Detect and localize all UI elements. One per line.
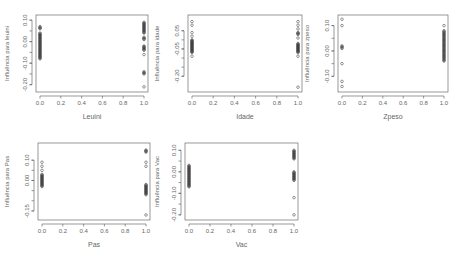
x-axis-label: Zpeso xyxy=(383,113,403,121)
x-tick-label: 0.0 xyxy=(188,100,197,106)
x-axis-label: Pas xyxy=(88,241,101,248)
y-tick-label: 0.05 xyxy=(174,24,180,36)
x-tick-label: 0.0 xyxy=(38,228,47,234)
y-axis-label: Influência para Pas xyxy=(4,156,10,207)
x-tick-label: 0.0 xyxy=(36,100,45,106)
scatter-panel-vac: 0.00.20.40.60.81.00.100.00-0.10-0.20VacI… xyxy=(150,128,305,253)
x-tick-label: 0.6 xyxy=(98,100,107,106)
x-tick-label: 0.8 xyxy=(269,228,278,234)
y-tick-label: -0.10 xyxy=(22,56,28,70)
x-tick-label: 0.6 xyxy=(248,228,257,234)
plot-frame xyxy=(188,15,302,92)
y-tick-label: 0.00 xyxy=(24,174,30,186)
x-tick-label: 0.4 xyxy=(230,100,239,106)
scatter-plot: 0.00.20.40.60.81.00.100.00-0.10-0.20Leui… xyxy=(0,0,155,125)
x-tick-label: 1.0 xyxy=(140,100,149,106)
x-tick-label: 0.8 xyxy=(121,228,130,234)
y-tick-label: 0.00 xyxy=(22,35,28,47)
plot-frame xyxy=(338,15,448,92)
y-tick-label: -0.20 xyxy=(174,69,180,83)
x-tick-label: 0.6 xyxy=(100,228,109,234)
plot-frame xyxy=(38,143,150,220)
y-axis-label: Influência para Vac xyxy=(154,156,160,207)
scatter-panel-idade: 0.00.20.40.60.81.00.05-0.05-0.20IdadeInf… xyxy=(150,0,305,125)
scatter-panel-zpeso: 0.00.20.40.60.81.00.100.00-0.10ZpesoInfl… xyxy=(300,0,455,125)
y-tick-label: -0.10 xyxy=(171,186,177,200)
y-tick-label: 0.10 xyxy=(24,154,30,166)
x-tick-label: 1.0 xyxy=(440,100,449,106)
x-tick-label: 0.2 xyxy=(57,100,66,106)
data-points xyxy=(39,21,146,88)
x-tick-label: 0.0 xyxy=(338,100,347,106)
plot-frame xyxy=(185,143,298,220)
scatter-plot: 0.00.20.40.60.81.00.100.00-0.10-0.20VacI… xyxy=(150,128,305,253)
x-tick-label: 0.4 xyxy=(77,100,86,106)
y-axis-label: Influência para zpeso xyxy=(304,24,310,82)
scatter-panel-pas: 0.00.20.40.60.81.00.100.00-0.15PasInfluê… xyxy=(0,128,155,253)
y-tick-label: 0.10 xyxy=(171,144,177,156)
y-tick-label: -0.15 xyxy=(24,203,30,217)
y-axis-label: Influência para leuini xyxy=(4,26,10,81)
x-axis-label: Idade xyxy=(236,113,254,120)
y-tick-label: -0.20 xyxy=(171,207,177,221)
data-points xyxy=(188,149,296,216)
data-points xyxy=(191,20,300,88)
x-tick-label: 1.0 xyxy=(290,228,299,234)
y-tick-label: 0.10 xyxy=(22,14,28,26)
scatter-plot: 0.00.20.40.60.81.00.100.00-0.15PasInfluê… xyxy=(0,128,155,253)
x-tick-label: 0.6 xyxy=(251,100,260,106)
x-tick-label: 0.8 xyxy=(273,100,282,106)
y-tick-label: -0.20 xyxy=(22,77,28,91)
y-tick-label: -0.05 xyxy=(174,41,180,55)
x-axis-label: Leuini xyxy=(83,113,102,120)
scatter-plot: 0.00.20.40.60.81.00.05-0.05-0.20IdadeInf… xyxy=(150,0,305,125)
plot-frame xyxy=(36,15,148,92)
y-tick-label: -0.10 xyxy=(324,69,330,83)
data-points xyxy=(41,149,148,217)
x-tick-label: 0.2 xyxy=(206,228,215,234)
scatter-panel-leuini: 0.00.20.40.60.81.00.100.00-0.10-0.20Leui… xyxy=(0,0,155,125)
y-tick-label: 0.00 xyxy=(324,44,330,56)
x-tick-label: 0.2 xyxy=(59,228,68,234)
x-axis-label: Vac xyxy=(236,241,248,248)
x-tick-label: 0.4 xyxy=(79,228,88,234)
x-tick-label: 0.2 xyxy=(209,100,218,106)
y-axis-label: Influência para idade xyxy=(154,25,160,81)
x-tick-label: 0.6 xyxy=(399,100,408,106)
scatter-plot: 0.00.20.40.60.81.00.100.00-0.10ZpesoInfl… xyxy=(300,0,455,125)
x-tick-label: 0.8 xyxy=(419,100,428,106)
y-tick-label: 0.00 xyxy=(171,165,177,177)
y-tick-label: 0.10 xyxy=(324,19,330,31)
x-tick-label: 0.0 xyxy=(185,228,194,234)
x-tick-label: 0.4 xyxy=(227,228,236,234)
data-points xyxy=(341,18,446,88)
x-tick-label: 0.2 xyxy=(358,100,367,106)
x-tick-label: 0.8 xyxy=(119,100,128,106)
x-tick-label: 0.4 xyxy=(379,100,388,106)
